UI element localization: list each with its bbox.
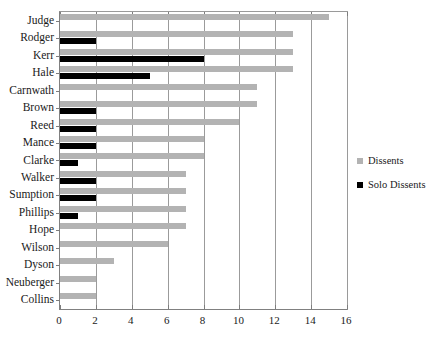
y-axis-label-clarke: Clarke: [23, 154, 54, 166]
bar-solo-dissents: [60, 160, 78, 166]
legend-swatch-icon: [357, 182, 363, 188]
legend-label: Solo Dissents: [368, 179, 425, 190]
bar-row: [60, 292, 347, 309]
bar-dissents: [60, 66, 293, 72]
chart-legend: DissentsSolo Dissents: [357, 155, 425, 203]
x-axis-tick-label: 10: [233, 314, 244, 326]
y-axis-tick: [56, 248, 60, 249]
x-axis-tick-label: 2: [92, 314, 98, 326]
bar-dissents: [60, 136, 204, 142]
y-axis-tick: [56, 126, 60, 127]
bar-solo-dissents: [60, 73, 150, 79]
bar-row: [60, 222, 347, 239]
bar-dissents: [60, 241, 168, 247]
bar-row: [60, 152, 347, 169]
y-axis-label-rodger: Rodger: [20, 31, 54, 43]
bar-row: [60, 82, 347, 99]
bar-solo-dissents: [60, 213, 78, 219]
x-axis-tick: [347, 12, 348, 16]
y-axis-tick: [56, 195, 60, 196]
y-axis-label-kerr: Kerr: [33, 49, 54, 61]
y-axis-tick: [56, 300, 60, 301]
bar-solo-dissents: [60, 56, 204, 62]
legend-label: Dissents: [368, 155, 404, 166]
x-axis-tick-label: 12: [269, 314, 280, 326]
bar-dissents: [60, 293, 96, 299]
bar-dissents: [60, 223, 186, 229]
y-axis-tick: [56, 230, 60, 231]
bar-solo-dissents: [60, 126, 96, 132]
bar-dissents: [60, 153, 204, 159]
bar-row: [60, 169, 347, 186]
bar-solo-dissents: [60, 38, 96, 44]
x-axis-tick-label: 4: [128, 314, 134, 326]
bar-dissents: [60, 188, 186, 194]
bar-dissents: [60, 171, 186, 177]
legend-swatch-icon: [357, 158, 363, 164]
y-axis-tick: [56, 73, 60, 74]
y-axis-tick: [56, 108, 60, 109]
bar-row: [60, 134, 347, 151]
y-axis-label-neuberger: Neuberger: [6, 276, 54, 288]
y-axis-tick: [56, 283, 60, 284]
bar-solo-dissents: [60, 143, 96, 149]
y-axis-label-phillips: Phillips: [19, 206, 54, 218]
bar-solo-dissents: [60, 195, 96, 201]
y-axis-tick: [56, 91, 60, 92]
x-axis-tick: [347, 305, 348, 309]
y-axis-tick: [56, 21, 60, 22]
y-axis-tick: [56, 160, 60, 161]
y-axis-label-brown: Brown: [23, 101, 54, 113]
x-axis-tick-label: 16: [341, 314, 352, 326]
bar-row: [60, 204, 347, 221]
y-axis-tick: [56, 143, 60, 144]
bar-row: [60, 29, 347, 46]
y-axis-tick: [56, 38, 60, 39]
bar-dissents: [60, 14, 329, 20]
y-axis-label-sumption: Sumption: [9, 188, 54, 200]
y-axis-label-dyson: Dyson: [24, 258, 54, 270]
y-axis-label-reed: Reed: [30, 119, 54, 131]
bar-row: [60, 64, 347, 81]
bar-solo-dissents: [60, 108, 96, 114]
y-axis-tick: [56, 56, 60, 57]
bar-row: [60, 47, 347, 64]
bar-dissents: [60, 258, 114, 264]
bar-row: [60, 99, 347, 116]
bar-dissents: [60, 276, 96, 282]
y-axis-label-collins: Collins: [21, 293, 54, 305]
y-axis-label-hale: Hale: [32, 66, 54, 78]
y-axis-label-judge: Judge: [27, 14, 54, 26]
bar-dissents: [60, 119, 239, 125]
plot-area: [59, 11, 348, 310]
y-axis-label-carnwath: Carnwath: [9, 84, 54, 96]
x-axis-tick-label: 14: [305, 314, 316, 326]
legend-item: Dissents: [357, 155, 425, 166]
bar-chart: 0246810121416 JudgeRodgerKerrHaleCarnwat…: [0, 0, 428, 346]
bar-dissents: [60, 206, 186, 212]
bar-dissents: [60, 84, 257, 90]
x-axis-tick-label: 0: [56, 314, 62, 326]
bar-dissents: [60, 101, 257, 107]
bar-row: [60, 187, 347, 204]
x-axis-tick-label: 6: [164, 314, 170, 326]
bar-dissents: [60, 49, 293, 55]
y-axis-label-walker: Walker: [21, 171, 54, 183]
bar-dissents: [60, 31, 293, 37]
y-axis-tick: [56, 265, 60, 266]
bar-row: [60, 239, 347, 256]
bar-row: [60, 257, 347, 274]
legend-item: Solo Dissents: [357, 179, 425, 190]
y-axis-label-wilson: Wilson: [21, 241, 54, 253]
x-axis-tick-label: 8: [200, 314, 206, 326]
y-axis-tick: [56, 178, 60, 179]
y-axis-label-hope: Hope: [29, 223, 54, 235]
y-axis-tick: [56, 213, 60, 214]
bar-solo-dissents: [60, 178, 96, 184]
bar-row: [60, 117, 347, 134]
bar-row: [60, 274, 347, 291]
y-axis-label-mance: Mance: [23, 136, 54, 148]
bar-row: [60, 12, 347, 29]
